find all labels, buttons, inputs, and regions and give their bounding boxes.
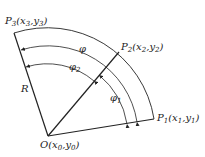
phi1-label: φ1 [110,92,121,105]
p2-label: P2(x2,y2) [120,41,164,54]
phi2-arc [26,64,94,81]
p3-label: P3(x3,y3) [4,15,48,28]
diagram-svg: P3(x3,y3) P2(x2,y2) P1(x1,y1) O(x0,y0) R… [0,0,205,157]
arc-geometry-diagram: P3(x3,y3) P2(x2,y2) P1(x1,y1) O(x0,y0) R… [0,0,205,157]
origin-label: O(x0,y0) [40,139,80,152]
radius-label: R [20,83,29,94]
phi-label: φ [79,43,86,54]
p1-label: P1(x1,y1) [156,112,200,125]
phi-arc [21,46,137,122]
radius-line-op3 [14,33,48,136]
radius-line-op1 [48,119,154,136]
phi2-label: φ2 [69,61,81,74]
